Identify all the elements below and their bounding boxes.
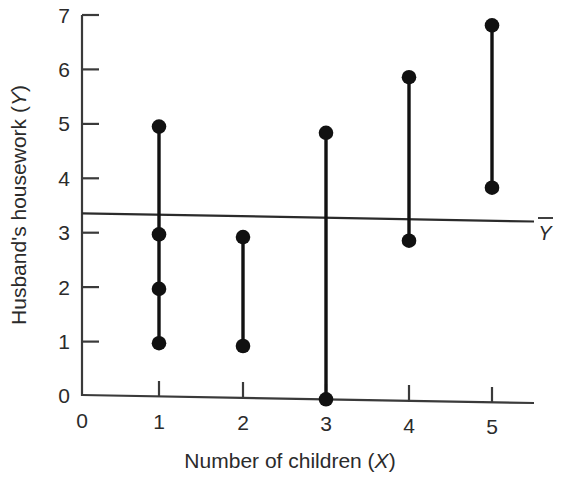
data-point[interactable] — [319, 392, 334, 407]
plot-svg: 7 6 5 4 3 2 1 0 0 1 2 3 4 5 — [0, 0, 567, 479]
y-tick-label-3: 3 — [58, 221, 70, 244]
y-tick-label-6: 6 — [58, 58, 70, 81]
y-axis-title-text: Husband's housework ( — [7, 106, 30, 325]
data-point[interactable] — [485, 18, 500, 33]
scatter-plot-figure: 7 6 5 4 3 2 1 0 0 1 2 3 4 5 — [0, 0, 567, 479]
data-point[interactable] — [236, 339, 251, 354]
x-axis-title-var: X — [374, 449, 390, 472]
y-tick-label-4: 4 — [58, 167, 70, 190]
data-point[interactable] — [319, 126, 334, 141]
x-axis-title-text: Number of children ( — [184, 449, 374, 472]
data-point[interactable] — [402, 233, 417, 248]
y-axis-title-group: Husband's housework (Y) — [7, 85, 30, 325]
x-tick-label-1: 1 — [153, 410, 165, 433]
x-tick-label-0: 0 — [76, 409, 88, 432]
y-tick-label-2: 2 — [58, 276, 70, 299]
data-point[interactable] — [152, 282, 167, 297]
point-connectors — [159, 25, 492, 399]
y-tick-label-7: 7 — [58, 4, 70, 27]
x-tick-label-4: 4 — [403, 414, 415, 437]
x-tick-label-2: 2 — [237, 411, 249, 434]
x-tick-label-3: 3 — [320, 412, 332, 435]
data-point[interactable] — [152, 227, 167, 242]
mean-line-label-group: Y — [538, 218, 553, 244]
data-point[interactable] — [236, 230, 251, 245]
y-axis-title: Husband's housework (Y) — [7, 85, 30, 325]
data-point[interactable] — [485, 180, 500, 195]
mean-line-label: Y — [538, 222, 553, 244]
y-tick-label-0: 0 — [58, 384, 70, 407]
x-axis-title-close: ) — [389, 449, 396, 472]
x-axis-title: Number of children (X) — [184, 449, 395, 472]
data-point[interactable] — [152, 336, 167, 351]
y-tick-label-5: 5 — [58, 112, 70, 135]
y-tick-label-1: 1 — [58, 330, 70, 353]
mean-line — [82, 213, 534, 221]
data-point[interactable] — [152, 119, 167, 134]
x-tick-label-5: 5 — [486, 415, 498, 438]
x-axis-title-group: Number of children (X) — [184, 449, 395, 472]
y-tick-labels: 7 6 5 4 3 2 1 0 — [58, 4, 70, 407]
data-point[interactable] — [402, 70, 417, 85]
x-tick-labels: 0 1 2 3 4 5 — [76, 409, 498, 438]
y-axis-title-close: ) — [7, 85, 30, 92]
y-axis-ticks — [82, 15, 99, 342]
x-axis-line — [82, 395, 534, 403]
